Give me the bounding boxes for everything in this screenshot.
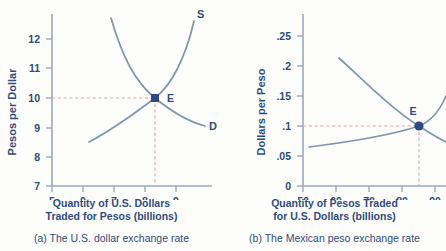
x-axis-title-b: Quantity of Pesos Traded for U.S. Dollar… (223, 197, 446, 222)
y-ticklabel-a-1: 8 (34, 151, 40, 163)
x-axis-title-a-line2: Traded for Pesos (billions) (0, 210, 223, 223)
y-ticklabel-b-4: .2 (282, 60, 291, 72)
x-axis-title-b-line2: for U.S. Dollars (billions) (223, 210, 446, 223)
panel-mexican-peso-exchange-rate: 0 .05 .1 .15 .2 .25 50 60 70 80 90 Dolla… (223, 0, 446, 251)
panel-caption-b: (b) The Mexican peso exchange rate (223, 232, 446, 244)
y-ticklabel-b-2: .1 (282, 120, 291, 132)
x-axis-title-a: Quantity of U.S. Dollars Traded for Peso… (0, 197, 223, 222)
y-ticklabel-a-2: 9 (34, 122, 40, 134)
chart-a-plot: 7 8 9 10 11 12 5 6 7 8 9 Pesos per Dolla… (0, 0, 223, 200)
y-axis-title-b: Dollars per Peso (255, 68, 267, 155)
demand-curve-label-a: D (209, 120, 217, 132)
y-ticklabel-a-3: 10 (28, 92, 40, 104)
equilibrium-marker-b (414, 121, 423, 130)
y-ticklabel-a-4: 11 (29, 62, 40, 74)
y-ticklabel-b-5: .25 (276, 30, 291, 42)
supply-curve-a (89, 21, 194, 142)
y-ticklabel-a-0: 7 (34, 180, 40, 192)
y-ticklabel-b-1: .05 (276, 150, 291, 162)
panel-caption-a: (a) The U.S. dollar exchange rate (0, 232, 223, 244)
equilibrium-label-b: E (409, 105, 416, 117)
y-ticklabel-b-3: .15 (276, 90, 291, 102)
y-ticklabel-a-5: 12 (28, 33, 40, 45)
panel-us-dollar-exchange-rate: 7 8 9 10 11 12 5 6 7 8 9 Pesos per Dolla… (0, 0, 223, 251)
y-ticklabel-b-0: 0 (285, 180, 291, 192)
demand-curve-b (339, 58, 446, 142)
equilibrium-marker-a (151, 94, 159, 102)
exchange-rate-figure: 7 8 9 10 11 12 5 6 7 8 9 Pesos per Dolla… (0, 0, 446, 251)
supply-curve-label-a: S (197, 8, 204, 20)
chart-b-plot: 0 .05 .1 .15 .2 .25 50 60 70 80 90 Dolla… (223, 0, 446, 200)
x-axis-title-a-line1: Quantity of U.S. Dollars (0, 197, 223, 210)
supply-curve-b (309, 96, 446, 147)
y-axis-title-a: Pesos per Dollar (6, 68, 18, 156)
equilibrium-label-a: E (167, 92, 174, 104)
x-axis-title-b-line1: Quantity of Pesos Traded (223, 197, 446, 210)
